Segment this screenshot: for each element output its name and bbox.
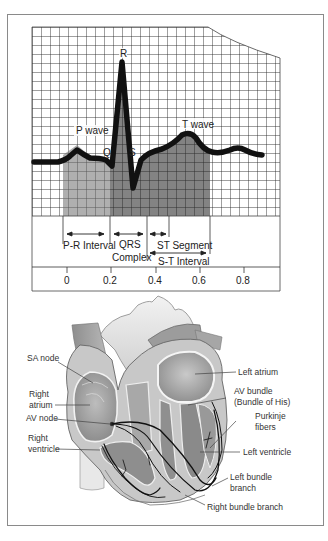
tick-0-4: 0.4 [148, 275, 162, 286]
qrs-label-line1: QRS [119, 239, 141, 250]
tick-0-8: 0.8 [236, 275, 250, 286]
purkinje-label-2: fibers [255, 422, 276, 432]
figure-canvas: P wave Q R S T wave P-R Interval QRS Com [0, 0, 328, 541]
st-segment-label: ST Segment [157, 240, 213, 251]
tick-0-6: 0.6 [192, 275, 206, 286]
ecg-grid [32, 27, 282, 217]
av-node-label: AV node [26, 413, 58, 423]
ecg-chart: P wave Q R S T wave P-R Interval QRS Com [32, 27, 282, 291]
q-label: Q [103, 147, 111, 158]
right-atrium-label-2: atrium [29, 400, 53, 410]
tick-0-2: 0.2 [103, 275, 117, 286]
left-atrium [158, 352, 214, 402]
right-bundle-label: Right bundle branch [207, 502, 283, 512]
tick-0: 0 [64, 275, 70, 286]
qrs-label-line2: Complex [112, 252, 151, 263]
purkinje-label-1: Purkinje [255, 411, 286, 421]
left-ventricle-label: Left ventricle [243, 447, 291, 457]
sa-node-label: SA node [27, 353, 59, 363]
right-atrium-label-1: Right [29, 389, 49, 399]
p-wave-label: P wave [76, 125, 109, 136]
heart-diagram: SA node Right atrium AV node Right ventr… [26, 296, 291, 512]
left-atrium-label: Left atrium [238, 367, 278, 377]
t-wave-label: T wave [182, 119, 214, 130]
st-interval-label: S-T Interval [158, 256, 210, 267]
left-bundle-label-1: Left bundle [230, 472, 272, 482]
left-bundle-label-2: branch [230, 483, 256, 493]
pr-interval-label: P-R Interval [63, 240, 116, 251]
right-ventricle-label-1: Right [28, 433, 48, 443]
right-ventricle-label-2: ventricle [28, 444, 60, 454]
s-label: S [129, 147, 136, 158]
av-bundle-label-2: (Bundle of His) [234, 397, 290, 407]
r-label: R [120, 48, 127, 59]
av-bundle-label-1: AV bundle [234, 386, 273, 396]
